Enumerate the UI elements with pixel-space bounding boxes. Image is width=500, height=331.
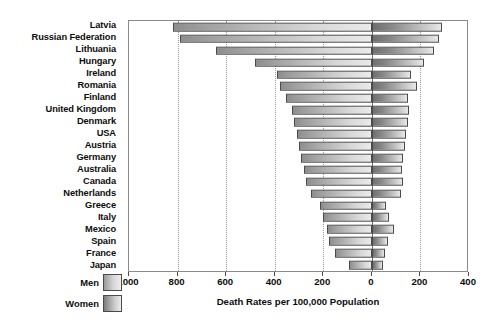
category-label: Russian Federation — [0, 32, 122, 44]
x-tick-label: 0 — [368, 276, 373, 287]
bar-men — [320, 201, 372, 210]
category-label: Lithuania — [0, 44, 122, 56]
bar-rows — [129, 21, 467, 271]
bar-men — [311, 189, 372, 198]
table-row — [129, 164, 467, 176]
bar-men — [277, 70, 372, 79]
table-row — [129, 92, 467, 104]
legend-label-men: Men — [80, 277, 99, 288]
x-tick-label: 600 — [217, 276, 233, 287]
category-label: Mexico — [0, 224, 122, 236]
table-row — [129, 116, 467, 128]
category-label: France — [0, 248, 122, 260]
bar-women — [372, 94, 408, 103]
bar-women — [372, 213, 389, 222]
x-tick-label: 400 — [460, 276, 476, 287]
category-axis-labels: LatviaRussian FederationLithuaniaHungary… — [0, 20, 122, 272]
x-tick-label: 200 — [314, 276, 330, 287]
bar-men — [304, 166, 372, 175]
category-label: Romania — [0, 80, 122, 92]
bar-women — [372, 237, 388, 246]
bar-women — [372, 118, 408, 127]
bar-women — [372, 82, 417, 91]
x-tick-label: 800 — [169, 276, 185, 287]
bar-men — [329, 237, 372, 246]
bar-women — [372, 35, 439, 44]
bar-men — [306, 177, 372, 186]
category-label: Denmark — [0, 116, 122, 128]
bar-men — [280, 82, 372, 91]
legend-item-men: Men — [22, 272, 122, 293]
bar-women — [372, 142, 405, 151]
bar-men — [301, 154, 371, 163]
category-label: Austria — [0, 140, 122, 152]
bar-men — [294, 118, 372, 127]
bar-men — [349, 261, 372, 270]
category-label: United Kingdom — [0, 104, 122, 116]
x-tick-label: 200 — [411, 276, 427, 287]
bar-women — [372, 249, 385, 258]
table-row — [129, 104, 467, 116]
table-row — [129, 81, 467, 93]
bar-women — [372, 46, 434, 55]
bar-women — [372, 225, 394, 234]
category-label: Japan — [0, 260, 122, 272]
table-row — [129, 21, 467, 33]
table-row — [129, 188, 467, 200]
category-label: Germany — [0, 152, 122, 164]
bar-women — [372, 130, 406, 139]
plot-area — [128, 20, 468, 272]
table-row — [129, 259, 467, 271]
legend-swatch-women — [103, 295, 122, 312]
bar-men — [292, 106, 372, 115]
category-label: Greece — [0, 200, 122, 212]
table-row — [129, 140, 467, 152]
chart-legend: Men Women — [22, 272, 122, 314]
bar-women — [372, 201, 387, 210]
bar-women — [372, 177, 404, 186]
bar-women — [372, 23, 442, 32]
bar-men — [180, 35, 372, 44]
legend-label-women: Women — [65, 298, 99, 309]
category-label: Italy — [0, 212, 122, 224]
bar-women — [372, 58, 424, 67]
table-row — [129, 176, 467, 188]
category-label: Spain — [0, 236, 122, 248]
bar-men — [173, 23, 372, 32]
table-row — [129, 33, 467, 45]
legend-swatch-men — [103, 274, 122, 291]
category-label: USA — [0, 128, 122, 140]
table-row — [129, 235, 467, 247]
bar-women — [372, 166, 402, 175]
table-row — [129, 69, 467, 81]
bar-women — [372, 154, 404, 163]
table-row — [129, 212, 467, 224]
bar-men — [335, 249, 371, 258]
category-label: Finland — [0, 92, 122, 104]
x-tick-label: 400 — [266, 276, 282, 287]
bar-men — [327, 225, 372, 234]
category-label: Ireland — [0, 68, 122, 80]
bar-women — [372, 261, 383, 270]
bar-men — [297, 130, 372, 139]
bar-men — [323, 213, 372, 222]
bar-women — [372, 106, 410, 115]
table-row — [129, 223, 467, 235]
category-label: Canada — [0, 176, 122, 188]
table-row — [129, 128, 467, 140]
category-label: Australia — [0, 164, 122, 176]
category-label: Hungary — [0, 56, 122, 68]
bar-men — [255, 58, 372, 67]
legend-item-women: Women — [22, 293, 122, 314]
bar-women — [372, 70, 411, 79]
bar-men — [216, 46, 371, 55]
category-label: Latvia — [0, 20, 122, 32]
table-row — [129, 57, 467, 69]
category-label: Netherlands — [0, 188, 122, 200]
table-row — [129, 45, 467, 57]
x-axis-ticks: 10008006004002000200400 — [128, 272, 468, 278]
bar-women — [372, 189, 401, 198]
table-row — [129, 200, 467, 212]
x-axis-title: Death Rates per 100,000 Population — [128, 296, 468, 307]
table-row — [129, 247, 467, 259]
